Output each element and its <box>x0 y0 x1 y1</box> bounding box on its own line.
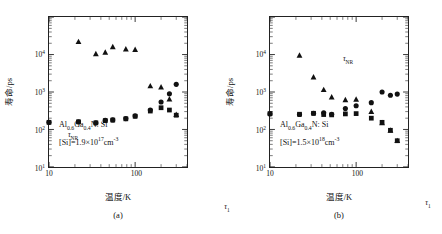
data-point <box>388 93 393 98</box>
doping-label: [Si]=1.5×1018cm-3 <box>280 139 339 147</box>
x-axis-label-a: 温度/K <box>105 190 132 202</box>
data-point <box>123 116 128 121</box>
y-axis-label-b: 寿命/ps <box>223 78 235 106</box>
panel-caption-b: (b) <box>334 210 344 220</box>
data-point <box>395 92 400 97</box>
data-point <box>174 113 179 118</box>
plot-area-b: 10110210310410100τNRτRτ1Al0.6Ga0.4N: Si[… <box>269 16 409 168</box>
data-point <box>110 44 116 49</box>
figure-two-panel-lifetime-plots: 寿命/ps 10110210310410100τNRτRτ1Al0.6Ga0.4… <box>0 0 442 234</box>
data-point <box>148 109 153 114</box>
data-point <box>329 94 335 99</box>
data-point <box>159 99 164 104</box>
data-point <box>132 47 138 52</box>
y-tick-label: 101 <box>35 165 45 173</box>
plot-area-a: 10110210310410100τNRτRτ1Al0.6Ga0.4N: Si[… <box>48 16 188 168</box>
series-triangle <box>76 39 180 117</box>
y-tick-label: 102 <box>35 127 45 135</box>
data-point <box>167 108 172 113</box>
data-point <box>102 49 108 54</box>
data-point <box>147 83 153 88</box>
data-point <box>354 111 359 116</box>
panel-b: 寿命/ps 10110210310410100τNRτRτ1Al0.6Ga0.4… <box>221 0 442 234</box>
data-point <box>329 113 334 118</box>
data-point <box>342 97 348 102</box>
data-point <box>110 118 115 123</box>
panel-a: 寿命/ps 10110210310410100τNRτRτ1Al0.6Ga0.4… <box>0 0 221 234</box>
data-point <box>388 128 393 133</box>
series-triangle <box>297 52 401 143</box>
data-point <box>174 82 179 87</box>
data-point <box>297 112 302 117</box>
y-tick-label: 103 <box>35 89 45 97</box>
data-point <box>167 96 173 101</box>
data-point <box>343 112 348 117</box>
data-point <box>353 96 359 101</box>
data-point <box>47 120 52 125</box>
data-point <box>321 112 326 117</box>
material-label: Al0.6Ga0.4N: Si <box>59 121 107 129</box>
panel-caption-a: (a) <box>113 210 122 220</box>
data-point <box>368 109 374 114</box>
data-point <box>380 120 385 125</box>
data-point <box>395 138 400 143</box>
data-point <box>297 52 303 57</box>
data-point <box>93 51 99 56</box>
x-tick-label: 10 <box>45 170 53 178</box>
data-point <box>369 116 374 121</box>
x-tick-label: 100 <box>352 170 363 178</box>
data-point <box>158 84 164 89</box>
data-point <box>321 87 327 92</box>
tau-1-annotation: τ1 <box>425 199 430 207</box>
data-point <box>343 106 348 111</box>
material-label: Al0.6Ga0.4N: Si <box>280 121 328 129</box>
data-point <box>354 103 359 108</box>
data-point <box>369 100 374 105</box>
data-point <box>311 74 317 79</box>
y-tick-label: 103 <box>256 89 266 97</box>
data-point <box>311 111 316 116</box>
x-tick-label: 100 <box>131 170 142 178</box>
y-tick-label: 101 <box>256 165 266 173</box>
data-point <box>76 39 82 44</box>
data-point <box>123 46 129 51</box>
y-tick-label: 104 <box>35 51 45 59</box>
x-tick-label: 10 <box>266 170 274 178</box>
data-point <box>133 114 138 119</box>
doping-label: [Si]=1.9×1017cm-3 <box>59 139 118 147</box>
data-point <box>159 105 164 110</box>
tau-nr-annotation: τNR <box>343 55 353 63</box>
data-point <box>380 89 385 94</box>
y-tick-label: 104 <box>256 51 266 59</box>
data-point <box>268 111 273 116</box>
data-point <box>167 91 172 96</box>
y-tick-label: 102 <box>256 127 266 135</box>
y-axis-label-a: 寿命/ps <box>2 78 14 106</box>
x-axis-label-b: 温度/K <box>326 190 353 202</box>
